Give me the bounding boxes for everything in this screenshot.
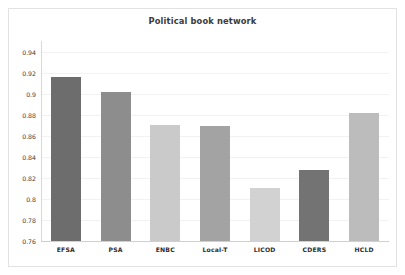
bar-efsa[interactable]	[51, 77, 81, 241]
bar-fill	[200, 126, 230, 241]
y-tick-label: 0.86	[2, 132, 36, 139]
bar-enbc[interactable]	[150, 125, 180, 241]
bars-group	[41, 41, 389, 241]
x-tick-label: ENBC	[140, 246, 190, 253]
y-tick-label: 0.78	[2, 216, 36, 223]
bar-fill	[349, 113, 379, 241]
y-tick-label: 0.88	[2, 111, 36, 118]
y-tick-label: 0.92	[2, 69, 36, 76]
y-tick-label: 0.8	[2, 195, 36, 202]
x-tick-label: CDERS	[290, 246, 340, 253]
bar-psa[interactable]	[101, 92, 131, 241]
chart-figure: Political book network 0.940.920.90.880.…	[0, 0, 405, 275]
bar-fill	[250, 188, 280, 241]
y-tick-label: 0.94	[2, 48, 36, 55]
x-tick-label: HCLD	[339, 246, 389, 253]
y-tick-label: 0.9	[2, 90, 36, 97]
x-tick-label: Local-T	[190, 246, 240, 253]
bar-cders[interactable]	[299, 170, 329, 241]
x-tick-label: LICOD	[240, 246, 290, 253]
y-tick-label: 0.76	[2, 238, 36, 245]
x-axis-tick-labels: EFSAPSAENBCLocal-TLICODCDERSHCLD	[41, 246, 389, 262]
y-tick-label: 0.82	[2, 174, 36, 181]
x-tick-label: PSA	[91, 246, 141, 253]
bar-fill	[101, 92, 131, 241]
bar-local-t[interactable]	[200, 126, 230, 241]
bar-fill	[51, 77, 81, 241]
bar-fill	[299, 170, 329, 241]
bar-licod[interactable]	[250, 188, 280, 241]
bar-hcld[interactable]	[349, 113, 379, 241]
x-tick-label: EFSA	[41, 246, 91, 253]
x-axis-line	[41, 241, 389, 242]
bar-fill	[150, 125, 180, 241]
y-tick-label: 0.84	[2, 153, 36, 160]
y-axis-tick-labels: 0.940.920.90.880.860.840.820.80.780.76	[0, 41, 36, 242]
chart-title: Political book network	[0, 16, 405, 26]
